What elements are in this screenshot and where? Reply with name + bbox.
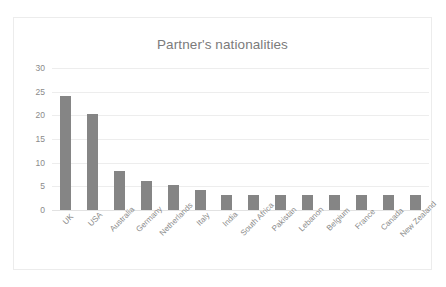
x-label-slot: New Zealand — [402, 212, 429, 284]
bar-slot — [52, 68, 79, 210]
bar-new-zealand[interactable] — [410, 195, 421, 210]
bar-germany[interactable] — [141, 181, 152, 210]
bar-slot — [160, 68, 187, 210]
bar-south-africa[interactable] — [248, 195, 259, 210]
x-label-slot: Netherlands — [160, 212, 187, 284]
bar-canada[interactable] — [383, 195, 394, 210]
bar-slot — [294, 68, 321, 210]
bar-usa[interactable] — [87, 114, 98, 210]
bar-netherlands[interactable] — [168, 185, 179, 210]
x-label-slot: Lebanon — [294, 212, 321, 284]
y-tick-label: 30 — [36, 63, 45, 73]
bar-india[interactable] — [221, 195, 232, 210]
chart-container: Partner's nationalities 051015202530 UKU… — [13, 17, 432, 270]
x-label-slot: Pakistan — [267, 212, 294, 284]
x-axis-category-labels: UKUSAAustraliaGermanyNetherlandsItalyInd… — [52, 212, 429, 284]
x-tick-label-india: India — [221, 210, 240, 229]
bar-slot — [321, 68, 348, 210]
bar-pakistan[interactable] — [275, 195, 286, 210]
bar-slot — [79, 68, 106, 210]
bar-slot — [267, 68, 294, 210]
y-tick-label: 15 — [36, 134, 45, 144]
bar-italy[interactable] — [195, 190, 206, 210]
x-label-slot: Germany — [133, 212, 160, 284]
x-tick-label-usa: USA — [87, 210, 105, 228]
bar-slot — [402, 68, 429, 210]
x-label-slot: South Africa — [240, 212, 267, 284]
bar-slot — [240, 68, 267, 210]
x-label-slot: Canada — [375, 212, 402, 284]
bar-slot — [375, 68, 402, 210]
x-label-slot: India — [214, 212, 241, 284]
x-label-slot: Belgium — [321, 212, 348, 284]
x-label-slot: UK — [52, 212, 79, 284]
bar-uk[interactable] — [60, 96, 71, 210]
plot-area: 051015202530 — [52, 68, 429, 210]
y-tick-label: 0 — [40, 205, 45, 215]
y-tick-label: 25 — [36, 87, 45, 97]
x-tick-label-italy: Italy — [195, 211, 212, 228]
y-tick-label: 5 — [40, 181, 45, 191]
bar-slot — [133, 68, 160, 210]
bar-slot — [187, 68, 214, 210]
x-label-slot: Australia — [106, 212, 133, 284]
bar-slot — [106, 68, 133, 210]
x-label-slot: Italy — [187, 212, 214, 284]
bar-france[interactable] — [356, 195, 367, 210]
y-tick-label: 20 — [36, 110, 45, 120]
bar-slot — [214, 68, 241, 210]
y-tick-label: 10 — [36, 158, 45, 168]
x-label-slot: USA — [79, 212, 106, 284]
bar-lebanon[interactable] — [302, 195, 313, 210]
bar-slot — [348, 68, 375, 210]
bar-series — [52, 68, 429, 210]
chart-title: Partner's nationalities — [14, 37, 431, 52]
x-tick-label-uk: UK — [62, 212, 76, 226]
bar-australia[interactable] — [114, 171, 125, 210]
bar-belgium[interactable] — [329, 195, 340, 210]
x-label-slot: France — [348, 212, 375, 284]
